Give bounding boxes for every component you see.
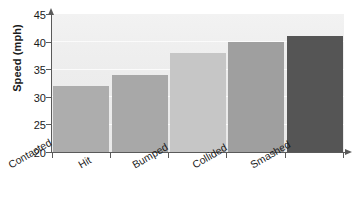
y-axis-tick-labels: 45 40 35 30 25 20 [16, 0, 46, 198]
x-axis-arrow-icon [345, 149, 352, 155]
bar-chart: Speed (mph) 45 40 35 30 25 20 ContactedH… [0, 0, 362, 198]
y-tick-label: 40 [20, 38, 46, 49]
x-tick-mark [110, 153, 111, 158]
y-axis-arrow-icon [48, 8, 54, 15]
plot-area [52, 14, 344, 152]
bar [287, 36, 343, 152]
x-tick-mark [226, 153, 227, 158]
bar [170, 53, 226, 152]
y-tick-label: 30 [20, 93, 46, 104]
bar [228, 42, 284, 152]
x-tick-mark [285, 153, 286, 158]
y-tick-label: 45 [20, 10, 46, 21]
y-axis-line [51, 14, 52, 153]
y-tick-label: 25 [20, 120, 46, 131]
x-tick-mark [52, 153, 53, 158]
x-tick-mark [343, 153, 344, 158]
x-axis-label-hit: Hit [76, 154, 93, 171]
bar [53, 86, 109, 152]
y-tick-label: 35 [20, 65, 46, 76]
bar [112, 75, 168, 152]
y-tick-label: 20 [20, 148, 46, 159]
bars-layer [52, 14, 344, 152]
x-axis-line [51, 152, 345, 153]
x-tick-mark [168, 153, 169, 158]
